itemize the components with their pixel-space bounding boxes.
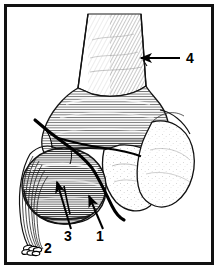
callout-2: 2	[44, 240, 52, 256]
label-1: 1	[96, 228, 104, 244]
label-2: 2	[44, 240, 52, 256]
anatomical-illustration: 4 1 3 2	[0, 0, 218, 269]
humeral-shaft	[78, 10, 152, 102]
label-3: 3	[64, 228, 72, 244]
figure-container: 4 1 3 2	[0, 0, 218, 269]
label-4: 4	[186, 50, 194, 66]
